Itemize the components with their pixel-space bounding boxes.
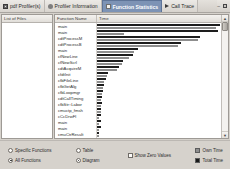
total-time-swatch-icon [195,158,200,163]
checkbox-icon[interactable] [128,153,133,158]
legend-label: Own Time [202,148,222,153]
bottom-controls: Specific Functions All Functions Table D… [0,140,230,169]
function-name-column: mainmaincdtProcessMcdtProcessBmaincfNewL… [55,23,97,138]
tab-bar-spacer [198,0,217,12]
scrollbar-thumb[interactable] [222,22,228,31]
bar-row[interactable] [97,132,220,138]
radio-label: Diagram [83,158,100,163]
legend-item-total-time: Total Time [195,156,223,164]
radio-icon[interactable] [8,148,13,153]
tab-function-statistics[interactable]: Function Statistics [102,0,163,12]
tab-label: Function Statistics [113,4,159,10]
tab-call-trace[interactable]: Call Trace [162,0,198,12]
radio-label: All Functions [15,158,41,163]
bar-chart: mainmaincdtProcessMcdtProcessBmaincfNewL… [55,23,228,138]
column-header-time[interactable]: Time [97,15,228,22]
radio-table[interactable]: Table [76,146,100,154]
scope-radio-group: Specific Functions All Functions [8,146,52,164]
profiler-window: pdf Profiler(s) Profiler Information Fun… [0,0,230,169]
tab-label: Call Trace [171,3,194,9]
play-icon [165,4,169,8]
scrollbar-track[interactable] [222,22,229,131]
vertical-scrollbar[interactable]: ▲ ▼ [221,15,228,138]
tab-label: Profiler Information [55,3,98,9]
column-header-function-name[interactable]: Function Name [55,15,97,22]
close-icon[interactable] [223,4,227,8]
main-content: List of Files Function Name Time mainmai… [0,13,230,140]
radio-specific-functions[interactable]: Specific Functions [8,146,52,154]
tab-profiler-information[interactable]: Profiler Information [45,0,102,12]
minimize-icon[interactable]: – [217,4,220,9]
checkbox-label: Show Zero Values [135,153,171,158]
own-time-bar [97,135,99,137]
radio-all-functions[interactable]: All Functions [8,156,52,164]
radio-icon-selected[interactable] [76,158,81,163]
chart-legend: Own Time Total Time [195,146,227,164]
radio-icon[interactable] [76,148,81,153]
function-name-cell[interactable]: cmuCtrResult [55,132,96,138]
time-bars-column [97,23,228,138]
own-time-swatch-icon [195,148,200,153]
legend-item-own-time: Own Time [195,146,223,154]
view-radio-group: Table Diagram [76,146,100,164]
file-list-header: List of Files [2,15,52,23]
file-list-panel[interactable]: List of Files [1,14,53,139]
radio-label: Table [83,148,94,153]
radio-diagram[interactable]: Diagram [76,156,100,164]
show-zero-values-group: Show Zero Values [128,151,171,159]
tab-label: pdf Profiler(s) [10,3,41,9]
radio-icon-selected[interactable] [8,158,13,163]
radio-label: Specific Functions [15,148,52,153]
scroll-down-icon[interactable]: ▼ [222,131,229,138]
file-list-body[interactable] [2,23,52,138]
checkbox-icon [106,4,111,9]
checkbox-show-zero-values[interactable]: Show Zero Values [128,151,171,159]
legend-label: Total Time [202,158,223,163]
function-statistics-panel: Function Name Time mainmaincdtProcessMcd… [54,14,229,139]
info-icon [48,4,53,9]
tab-bar: pdf Profiler(s) Profiler Information Fun… [0,0,230,13]
grid-header: Function Name Time [55,15,228,23]
window-controls: – [217,0,230,12]
scroll-up-icon[interactable]: ▲ [222,15,229,22]
tab-pdf-profilers[interactable]: pdf Profiler(s) [0,0,45,12]
document-icon [3,4,8,9]
